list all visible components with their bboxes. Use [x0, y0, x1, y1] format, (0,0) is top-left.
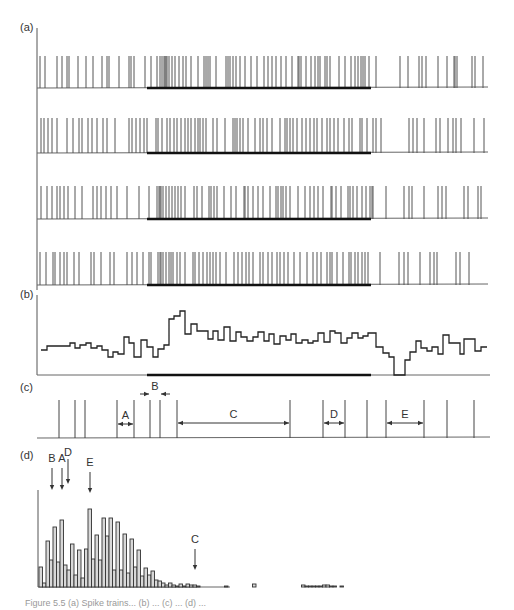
panel-label-a: (a) [20, 21, 33, 33]
isi-bar [109, 518, 113, 587]
arrow-down-icon [66, 479, 70, 484]
isi-bar [50, 560, 54, 587]
isi-arrow-label-C: C [191, 533, 199, 545]
isi-bar [305, 586, 309, 587]
isi-bar [46, 541, 50, 587]
isi-bar [162, 583, 166, 587]
isi-bar [95, 535, 99, 587]
isi-bar [190, 585, 194, 587]
isi-bar [197, 586, 201, 587]
isi-bar [120, 570, 124, 587]
isi-bar [169, 583, 173, 587]
isi-bar [330, 586, 334, 587]
isi-bar [141, 576, 145, 587]
figure-canvas: ABCDEBADEC [0, 0, 514, 610]
interval-label-A: A [122, 409, 130, 421]
panel-c-baseline [37, 437, 490, 438]
isi-bar [186, 584, 190, 587]
interval-label-E: E [401, 408, 408, 420]
isi-bar [253, 584, 257, 587]
isi-bar [148, 575, 152, 587]
isi-bar [333, 586, 337, 587]
isi-bar [81, 578, 85, 587]
isi-arrow-label-E: E [86, 456, 93, 468]
isi-bar [39, 567, 43, 587]
isi-arrow-label-D: D [64, 446, 72, 458]
isi-bar [144, 568, 148, 587]
isi-bar [106, 536, 110, 587]
isi-bar [158, 581, 162, 587]
isi-bar [165, 585, 169, 587]
interval-label-B: B [151, 380, 158, 392]
isi-bar [71, 544, 75, 587]
arrowhead-icon [387, 421, 392, 425]
isi-bar [302, 585, 306, 587]
isi-bar [53, 527, 57, 587]
isi-bar [225, 586, 229, 587]
arrowhead-icon [284, 421, 289, 425]
isi-bar [179, 584, 183, 587]
isi-bar [176, 586, 180, 587]
isi-bar [74, 575, 78, 587]
arrowhead-icon [128, 422, 133, 426]
arrowhead-icon [324, 421, 329, 425]
panel-label-d: (d) [20, 449, 33, 461]
isi-bar [102, 518, 106, 587]
isi-bar [319, 586, 323, 587]
arrow-down-icon [60, 485, 64, 490]
isi-bar [172, 585, 176, 587]
arrow-down-icon [193, 565, 197, 570]
isi-bar [309, 586, 313, 587]
interval-label-D: D [330, 408, 338, 420]
arrowhead-icon [178, 421, 183, 425]
isi-bar [67, 570, 71, 587]
isi-bar [183, 586, 187, 587]
isi-bar [99, 560, 103, 587]
arrowhead-icon [339, 421, 344, 425]
arrowhead-icon [161, 392, 166, 396]
panel-label-c: (c) [20, 381, 33, 393]
isi-bar [85, 549, 89, 587]
arrow-down-icon [88, 488, 92, 493]
isi-bar [323, 585, 327, 587]
isi-bar [151, 571, 155, 587]
isi-bar [43, 583, 47, 587]
isi-bar [326, 585, 330, 587]
panel-label-b: (b) [20, 288, 33, 300]
isi-bar [57, 562, 61, 587]
arrow-down-icon [50, 485, 54, 490]
arrowhead-icon [418, 421, 423, 425]
isi-bar [134, 567, 138, 587]
isi-arrow-label-B: B [48, 452, 55, 464]
isi-bar [155, 580, 159, 587]
arrowhead-icon [118, 422, 123, 426]
isi-bar [92, 559, 96, 587]
isi-bar [340, 586, 344, 587]
isi-bar [60, 520, 64, 587]
isi-bar [193, 585, 197, 587]
isi-bar [64, 565, 68, 587]
isi-bar [88, 509, 92, 587]
isi-bar [78, 550, 82, 587]
isi-bar [312, 586, 316, 587]
isi-bar [116, 522, 120, 587]
isi-bar [130, 539, 134, 587]
isi-bar [137, 550, 141, 587]
psth-step-line [41, 311, 487, 375]
isi-bar [123, 534, 127, 587]
isi-bar [127, 573, 131, 587]
arrowhead-icon [144, 392, 149, 396]
isi-bar [316, 586, 320, 587]
interval-label-C: C [230, 408, 238, 420]
figure-caption: Figure 5.5 (a) Spike trains... (b) ... (… [25, 598, 495, 610]
isi-bar [113, 570, 117, 587]
